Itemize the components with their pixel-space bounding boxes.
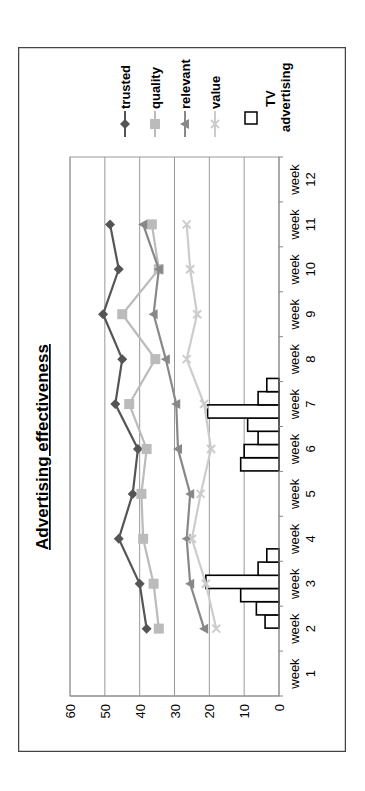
x-tick-label: 10 — [303, 262, 318, 276]
x-tick-label: week — [287, 658, 302, 690]
legend-label-value: value — [208, 76, 223, 109]
y-tick-label: 10 — [237, 704, 252, 718]
y-tick-label: 40 — [133, 704, 148, 718]
square-marker — [149, 579, 159, 589]
square-marker — [150, 119, 160, 129]
tv-advertising-bar — [256, 602, 279, 615]
square-marker — [150, 354, 160, 364]
x-tick-label: 9 — [303, 311, 318, 318]
x-tick-label: week — [287, 568, 302, 600]
x-tick-label: week — [287, 523, 302, 555]
tv-advertising-bar — [241, 458, 279, 471]
tv-advertising-bar — [265, 615, 279, 628]
legend-box-tv-advertising — [245, 112, 257, 124]
x-tick-label: week — [287, 433, 302, 465]
legend-label-advertising: advertising — [278, 63, 293, 132]
square-marker — [154, 624, 164, 634]
tv-advertising-bar — [258, 392, 279, 405]
advertising-effectiveness-chart: Advertising effectiveness 0102030405060w… — [18, 47, 346, 752]
y-tick-label: 30 — [168, 704, 183, 718]
x-tick-label: week — [287, 388, 302, 420]
tv-advertising-bar — [206, 575, 279, 588]
x-tick-label: 4 — [303, 535, 318, 542]
tv-advertising-bar — [258, 431, 279, 444]
square-marker — [124, 399, 134, 409]
x-tick-label: week — [287, 209, 302, 241]
x-tick-label: week — [287, 478, 302, 510]
x-tick-label: 5 — [303, 490, 318, 497]
square-marker — [136, 489, 146, 499]
x-tick-label: 3 — [303, 580, 318, 587]
square-marker — [142, 444, 152, 454]
x-tick-label: 1 — [303, 670, 318, 677]
x-tick-label: week — [287, 343, 302, 375]
tv-advertising-bar — [248, 418, 279, 431]
y-tick-label: 20 — [202, 704, 217, 718]
x-tick-label: 8 — [303, 356, 318, 363]
x-tick-label: 6 — [303, 445, 318, 452]
x-tick-label: 11 — [303, 218, 318, 232]
x-tick-label: week — [287, 254, 302, 286]
x-tick-label: 2 — [303, 625, 318, 632]
square-marker — [117, 309, 127, 319]
tv-advertising-bar — [208, 405, 279, 418]
chart-title: Advertising effectiveness — [33, 344, 52, 550]
y-tick-label: 50 — [98, 704, 113, 718]
tv-advertising-bar — [267, 378, 279, 391]
x-tick-label: week — [287, 613, 302, 645]
x-tick-label: 7 — [303, 400, 318, 407]
legend-label-tv: TV — [263, 90, 278, 107]
legend-label-relevant: relevant — [178, 58, 193, 109]
x-tick-label: week — [287, 299, 302, 331]
legend-label-trusted: trusted — [118, 65, 133, 109]
square-marker — [138, 534, 148, 544]
tv-advertising-bar — [258, 562, 279, 575]
tv-advertising-bar — [267, 549, 279, 562]
y-tick-label: 60 — [63, 704, 78, 718]
tv-advertising-bar — [241, 588, 279, 601]
y-tick-label: 0 — [272, 704, 287, 711]
legend-label-quality: quality — [148, 66, 163, 109]
tv-advertising-bar — [244, 444, 279, 457]
x-tick-label: 12 — [303, 172, 318, 186]
chart-frame: Advertising effectiveness 0102030405060w… — [18, 47, 346, 752]
square-marker — [147, 219, 157, 229]
x-tick-label: week — [287, 164, 302, 196]
